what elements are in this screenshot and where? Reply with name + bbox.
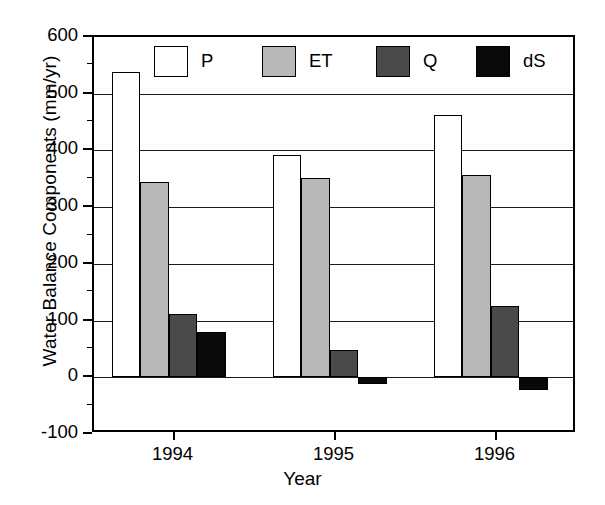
gridline	[94, 150, 573, 151]
plot-area: PETQdS	[92, 35, 575, 432]
legend-label-et: ET	[309, 52, 333, 71]
y-tick-label: -100	[8, 421, 78, 443]
legend-item-ds: dS	[476, 46, 546, 77]
bar-p-1994	[112, 72, 141, 377]
legend-swatch-q	[376, 46, 410, 77]
bar-q-1994	[169, 314, 198, 377]
y-tick-label: 300	[8, 194, 78, 216]
bar-et-1996	[462, 175, 491, 377]
y-tick-label: 200	[8, 251, 78, 273]
legend-label-p: P	[201, 52, 213, 71]
bar-ds-1994	[197, 332, 226, 377]
y-tick-label: 500	[8, 81, 78, 103]
legend-item-q: Q	[376, 46, 437, 77]
legend-swatch-p	[154, 46, 188, 77]
x-tick-label: 1995	[294, 443, 374, 465]
bar-q-1996	[491, 306, 520, 377]
y-tick-label: 100	[8, 308, 78, 330]
x-axis-title: Year	[0, 468, 605, 490]
chart-figure: Water Balance Components (mm/yr) -100010…	[0, 0, 605, 505]
legend-item-et: ET	[262, 46, 333, 77]
legend-label-ds: dS	[523, 52, 546, 71]
bar-ds-1995	[358, 377, 387, 383]
y-tick-label: 600	[8, 24, 78, 46]
x-tick	[173, 432, 175, 440]
y-tick-label: 0	[8, 364, 78, 386]
x-tick-label: 1994	[133, 443, 213, 465]
bar-p-1996	[434, 115, 463, 378]
legend-swatch-ds	[476, 46, 510, 77]
x-tick	[495, 432, 497, 440]
gridline	[94, 377, 573, 378]
legend-label-q: Q	[423, 52, 437, 71]
y-tick-label: 400	[8, 137, 78, 159]
legend-item-p: P	[154, 46, 213, 77]
bar-et-1995	[301, 178, 330, 378]
bar-ds-1996	[519, 377, 548, 389]
legend-swatch-et	[262, 46, 296, 77]
x-tick	[334, 432, 336, 440]
bar-et-1994	[140, 182, 169, 378]
bar-q-1995	[330, 350, 359, 377]
gridline	[94, 94, 573, 95]
x-tick-label: 1996	[455, 443, 535, 465]
bar-p-1995	[273, 155, 302, 377]
